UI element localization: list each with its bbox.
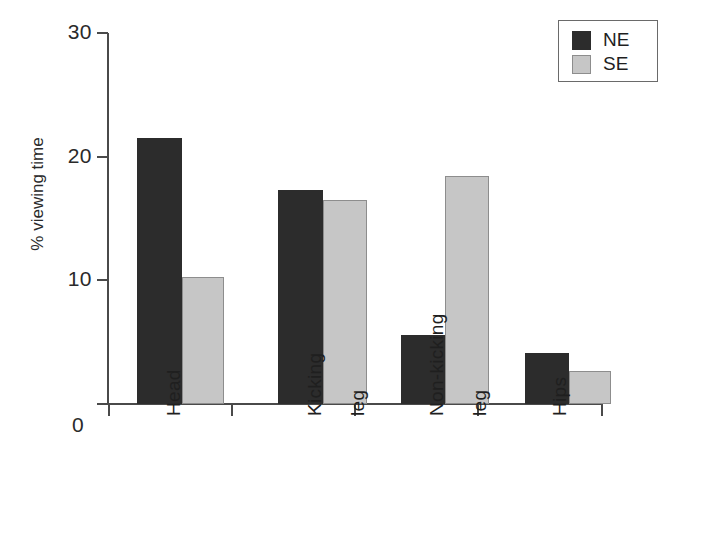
legend: NE SE — [558, 20, 658, 82]
bar-chart: 3020100 0 % viewing time HeadKickinglegN… — [0, 0, 701, 540]
bar-non-kicking-leg-se — [445, 176, 489, 404]
x-tick-0 — [108, 404, 110, 416]
y-tick-label: 20 — [46, 145, 92, 166]
legend-label-se: SE — [603, 53, 628, 75]
bar-kicking-leg-se — [323, 200, 367, 404]
x-label-leg-4: leg — [470, 390, 489, 416]
y-tick-label: 10 — [46, 268, 92, 289]
x-label-hips-5: Hips — [550, 377, 569, 416]
y-tick-30: 30 — [0, 32, 108, 34]
x-label-kicking-1: Kicking — [305, 353, 324, 416]
y-tick-10: 10 — [0, 279, 108, 281]
legend-swatch-ne-icon — [572, 31, 591, 50]
bar-head-ne — [137, 138, 182, 404]
y-tick-0: 0 — [0, 403, 108, 405]
x-label-head-0: Head — [164, 369, 183, 416]
bar-head-se — [182, 277, 224, 404]
bar-hips-se — [569, 371, 611, 404]
origin-label: 0 — [72, 414, 84, 435]
x-label-leg-2: leg — [348, 390, 367, 416]
y-tick-20: 20 — [0, 156, 108, 158]
y-axis-title: % viewing time — [29, 104, 47, 284]
x-tick-1 — [231, 404, 233, 416]
x-label-non-kicking-3: Non-kicking — [427, 313, 446, 416]
legend-label-ne: NE — [603, 29, 629, 51]
y-tick-label: 30 — [46, 21, 92, 42]
legend-swatch-se-icon — [572, 55, 591, 74]
x-tick-4 — [601, 404, 603, 416]
plot-area — [107, 33, 603, 404]
